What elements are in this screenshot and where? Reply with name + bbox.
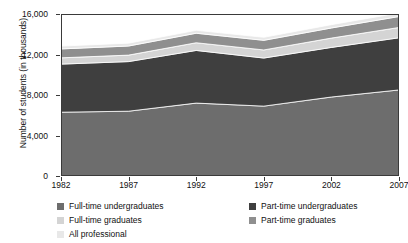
y-tick-label: 12,000 (22, 50, 48, 60)
legend-item-label: Part-time graduates (261, 216, 336, 225)
chart-root: Number of students (in thousands) 04,000… (0, 0, 408, 243)
x-tick-label: 1992 (187, 180, 206, 190)
x-tick-label: 2007 (390, 180, 408, 190)
y-tick-label: 16,000 (22, 9, 48, 19)
x-tick-label: 1987 (119, 180, 138, 190)
x-tick-label: 2002 (322, 180, 341, 190)
legend-swatch-icon (57, 231, 64, 238)
x-tick-label: 1982 (52, 180, 71, 190)
x-tick-mark (399, 177, 400, 181)
legend-column-right: Part-time undergraduatesPart-time gradua… (249, 200, 357, 228)
legend-column-left: Full-time undergraduatesFull-time gradua… (57, 200, 164, 242)
legend-swatch-icon (57, 203, 64, 210)
y-tick-label: 4,000 (27, 131, 48, 141)
y-tick-label: 8,000 (27, 90, 48, 100)
x-tick-mark (61, 177, 62, 181)
legend-swatch-icon (249, 203, 256, 210)
y-tick-mark (56, 95, 60, 96)
x-tick-mark (129, 177, 130, 181)
legend-item[interactable]: Full-time graduates (57, 214, 164, 227)
y-tick-mark (56, 55, 60, 56)
y-tick-mark (56, 14, 60, 15)
y-tick-mark (56, 176, 60, 177)
y-axis-ticks: 04,0008,00012,00016,000 (0, 14, 56, 176)
legend-item[interactable]: Part-time graduates (249, 214, 357, 227)
legend-swatch-icon (57, 217, 64, 224)
x-tick-label: 1997 (254, 180, 273, 190)
legend-item[interactable]: Part-time undergraduates (249, 200, 357, 213)
x-axis-ticks: 198219871992199720022007 (61, 177, 399, 193)
legend-item[interactable]: All professional (57, 228, 164, 241)
legend-item-label: All professional (69, 230, 127, 239)
chart-legend: Full-time undergraduatesFull-time gradua… (0, 200, 408, 243)
plot-border (61, 14, 399, 176)
x-tick-mark (331, 177, 332, 181)
chart-title (0, 0, 408, 4)
legend-item-label: Full-time undergraduates (69, 202, 164, 211)
legend-swatch-icon (249, 217, 256, 224)
y-tick-label: 0 (43, 171, 48, 181)
x-tick-mark (196, 177, 197, 181)
legend-item-label: Full-time graduates (69, 216, 142, 225)
legend-item[interactable]: Full-time undergraduates (57, 200, 164, 213)
x-tick-mark (264, 177, 265, 181)
plot-area (61, 14, 399, 176)
y-tick-mark (56, 136, 60, 137)
legend-item-label: Part-time undergraduates (261, 202, 357, 211)
